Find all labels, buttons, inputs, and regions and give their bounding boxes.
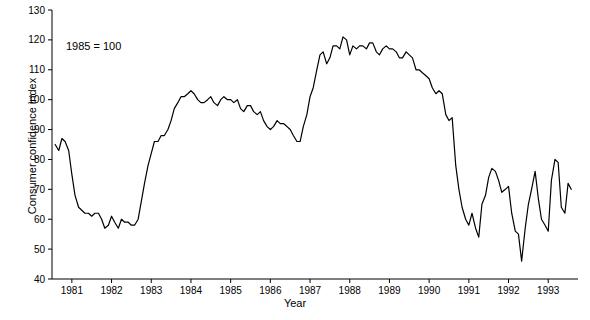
svg-text:1992: 1992: [497, 285, 520, 296]
svg-text:130: 130: [28, 5, 45, 16]
svg-text:1990: 1990: [418, 285, 441, 296]
data-series: [55, 37, 571, 261]
svg-text:1981: 1981: [61, 285, 84, 296]
svg-text:1982: 1982: [100, 285, 123, 296]
x-axis-ticks: 1981198219831984198519861987198819891990…: [61, 279, 560, 296]
svg-text:70: 70: [34, 184, 46, 195]
svg-text:1984: 1984: [180, 285, 203, 296]
svg-text:110: 110: [29, 64, 45, 75]
svg-text:1993: 1993: [537, 285, 560, 296]
svg-text:40: 40: [34, 274, 46, 285]
svg-text:1985: 1985: [220, 285, 243, 296]
svg-text:1988: 1988: [339, 285, 362, 296]
svg-text:60: 60: [34, 214, 46, 225]
axis-lines: [52, 10, 578, 279]
plot-area: 405060708090100110120130 198119821983198…: [0, 0, 590, 320]
svg-text:1987: 1987: [299, 285, 322, 296]
svg-text:80: 80: [34, 154, 46, 165]
y-axis-ticks: 405060708090100110120130: [28, 5, 52, 285]
svg-text:120: 120: [28, 34, 45, 45]
consumer-confidence-chart: Consumer confidence index Year 1985 = 10…: [0, 0, 590, 320]
svg-text:1986: 1986: [259, 285, 282, 296]
svg-text:90: 90: [34, 124, 46, 135]
svg-text:100: 100: [28, 94, 45, 105]
svg-text:50: 50: [34, 244, 46, 255]
svg-text:1983: 1983: [140, 285, 163, 296]
svg-text:1991: 1991: [458, 285, 481, 296]
svg-text:1989: 1989: [378, 285, 401, 296]
